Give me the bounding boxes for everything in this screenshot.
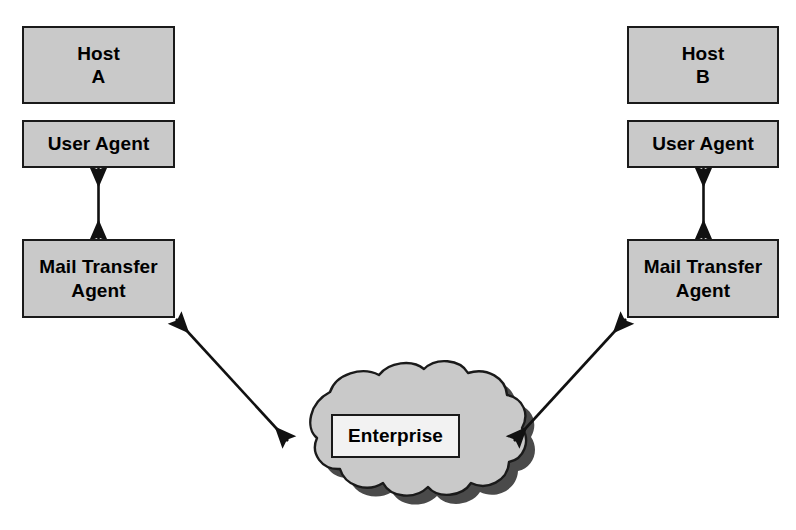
email-architecture-diagram: Host A User Agent Mail Transfer Agent Ho…: [0, 0, 796, 530]
enterprise-label-box: Enterprise: [331, 414, 460, 458]
user-agent-a-box: User Agent: [22, 120, 175, 168]
user-agent-b-box: User Agent: [627, 120, 779, 168]
arrow-mta-b-to-cloud: [514, 319, 626, 441]
mail-transfer-agent-b-box: Mail Transfer Agent: [627, 239, 779, 318]
host-b-box: Host B: [627, 26, 779, 104]
mail-transfer-agent-a-box: Mail Transfer Agent: [22, 239, 175, 318]
arrow-mta-a-to-cloud: [176, 319, 288, 441]
host-a-box: Host A: [22, 26, 175, 104]
